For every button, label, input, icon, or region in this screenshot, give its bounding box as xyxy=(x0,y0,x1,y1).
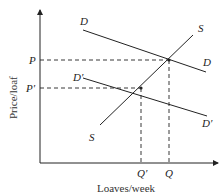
demand-label-left: D xyxy=(79,15,88,27)
demand-shifted-label-right: D′ xyxy=(201,117,213,129)
x-axis-title: Loaves/week xyxy=(97,182,156,194)
supply-label-bottom: S xyxy=(89,131,95,143)
supply-demand-diagram: S S D D D′ D′ P P′ Q′ Q Loaves/week Pric… xyxy=(0,0,222,195)
y-axis-title: Price/loaf xyxy=(7,76,19,119)
equilibrium-point-new xyxy=(139,86,142,89)
price-p-prime-label: P′ xyxy=(25,82,36,94)
price-p-label: P xyxy=(28,54,36,66)
supply-label-top: S xyxy=(198,22,204,34)
quantity-q-prime-label: Q′ xyxy=(137,167,148,179)
demand-shifted-label-left: D′ xyxy=(72,71,84,83)
quantity-q-label: Q xyxy=(165,167,173,179)
demand-shifted-curve xyxy=(83,78,207,116)
demand-label-right: D xyxy=(202,56,211,68)
equilibrium-point xyxy=(167,58,170,61)
demand-curve xyxy=(83,30,206,72)
supply-curve xyxy=(100,35,193,125)
